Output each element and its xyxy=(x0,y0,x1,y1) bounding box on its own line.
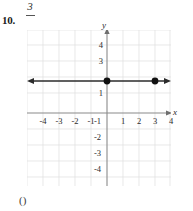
fraction-bar xyxy=(26,15,35,16)
x-tick-label: 3 xyxy=(148,117,162,126)
page-artifact: () xyxy=(19,194,26,206)
data-point xyxy=(104,78,111,85)
x-tick-label: -2 xyxy=(68,117,82,126)
graph-canvas xyxy=(27,30,171,186)
y-tick-label: -2 xyxy=(89,133,101,142)
y-tick-label: -3 xyxy=(89,149,101,158)
fraction-remnant: 3 xyxy=(21,0,39,16)
grid-lines xyxy=(27,30,171,186)
coordinate-graph: y x -4 -3 -2 -1 1 2 3 4 4 3 1 -1 -2 -3 -… xyxy=(27,30,171,186)
x-tick-label: -4 xyxy=(36,117,50,126)
x-tick-label: 2 xyxy=(132,117,146,126)
x-tick-label: 1 xyxy=(116,117,130,126)
problem-number: 10. xyxy=(2,14,15,26)
x-tick-label: 4 xyxy=(164,117,178,126)
x-tick-label: -3 xyxy=(52,117,66,126)
series-arrow-left xyxy=(27,78,34,84)
y-tick-label: 1 xyxy=(91,89,103,98)
y-tick-label: -4 xyxy=(89,165,101,174)
data-point xyxy=(152,78,159,85)
fraction-denominator: 3 xyxy=(21,0,39,12)
x-axis-label: x xyxy=(173,108,177,117)
y-axis-arrow xyxy=(104,30,109,34)
y-tick-label: 3 xyxy=(91,57,103,66)
y-tick-label: -1 xyxy=(89,117,101,126)
y-axis-label: y xyxy=(102,21,106,30)
y-tick-label: 4 xyxy=(91,41,103,50)
